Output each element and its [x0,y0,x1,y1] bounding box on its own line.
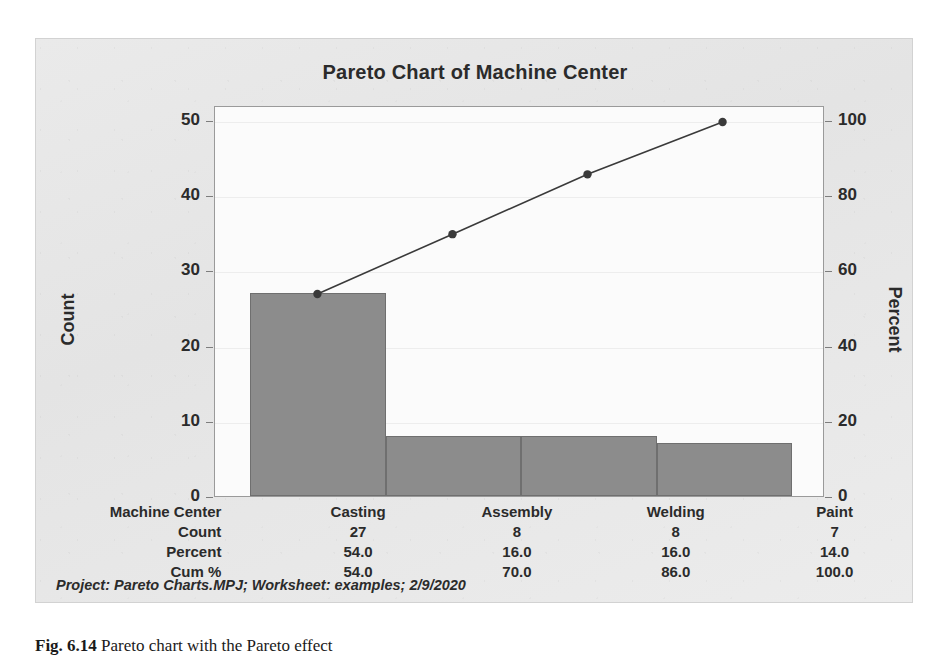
caption-label: Fig. 6.14 [35,636,97,655]
table-cell: Assembly [437,502,596,522]
tick-label: 20 [154,336,200,356]
table-cell: Paint [755,502,914,522]
gridline [215,122,823,123]
figure-footnote: Project: Pareto Charts.MPJ; Worksheet: e… [56,577,466,593]
table-spacer [221,542,278,562]
table-cell: 86.0 [596,562,755,582]
tick-mark [825,347,832,348]
tick-label: 40 [154,185,200,205]
table-spacer [221,502,278,522]
tick-mark [825,196,832,197]
tick-mark [206,422,213,423]
table-cell: 54.0 [279,542,438,562]
table-cell: 8 [437,522,596,542]
table-cell: 100.0 [755,562,914,582]
y-axis-title-percent: Percent [884,260,905,380]
tick-mark [825,271,832,272]
tick-label: 50 [154,110,200,130]
table-cell: Welding [596,502,755,522]
table-row: Count27887 [36,522,914,542]
tick-mark [825,497,832,498]
caption-text: Pareto chart with the Pareto effect [101,636,332,655]
gridline [215,197,823,198]
tick-label: 100 [838,110,884,130]
bar-casting [250,293,386,496]
y-axis-title-count: Count [58,260,79,380]
table-row-label: Machine Center [36,502,221,522]
tick-mark [206,497,213,498]
tick-label: 80 [838,185,884,205]
tick-label: 30 [154,260,200,280]
figure-caption: Fig. 6.14 Pareto chart with the Pareto e… [35,636,913,656]
table-row-label: Percent [36,542,221,562]
table-cell: 16.0 [437,542,596,562]
bar-paint [657,443,793,496]
plot-inner [215,107,823,496]
table-cell: Casting [279,502,438,522]
tick-mark [206,347,213,348]
tick-label: 10 [154,411,200,431]
tick-label: 20 [838,411,884,431]
tick-mark [206,271,213,272]
chart-title: Pareto Chart of Machine Center [36,61,914,84]
table-cell: 7 [755,522,914,542]
table-cell: 16.0 [596,542,755,562]
plot-area [214,106,824,497]
table-cell: 14.0 [755,542,914,562]
tick-label: 40 [838,336,884,356]
pareto-data-table: Machine CenterCastingAssemblyWeldingPain… [36,502,914,582]
table-row-label: Count [36,522,221,542]
table-cell: 8 [596,522,755,542]
gridline [215,272,823,273]
table-cell: 27 [279,522,438,542]
table-spacer [221,522,278,542]
table-row: Machine CenterCastingAssemblyWeldingPain… [36,502,914,522]
tick-mark [825,422,832,423]
tick-mark [206,196,213,197]
tick-label: 60 [838,260,884,280]
tick-mark [206,121,213,122]
pareto-chart-figure: Pareto Chart of Machine Center Count Per… [35,38,913,603]
bar-welding [521,436,657,496]
tick-mark [825,121,832,122]
bar-assembly [386,436,522,496]
table-row: Percent54.016.016.014.0 [36,542,914,562]
